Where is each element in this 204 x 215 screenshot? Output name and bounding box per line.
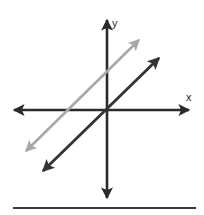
- graph-figure: x y: [0, 0, 204, 215]
- coordinate-plane-svg: x y: [0, 0, 204, 215]
- dark-line: [43, 58, 159, 171]
- x-axis-label: x: [186, 91, 192, 103]
- y-axis-label: y: [112, 17, 118, 29]
